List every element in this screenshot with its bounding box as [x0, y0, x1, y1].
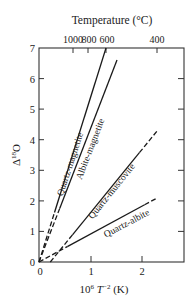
top-tick-400: 400: [150, 34, 165, 45]
y-tick-6: 6: [30, 74, 35, 85]
y-tick-7: 7: [30, 43, 35, 54]
top-ticks: [73, 48, 157, 53]
chart: Temperature (°C) 1000 800 600 400 0: [0, 0, 196, 304]
left-ticks: [39, 79, 44, 232]
y-tick-2: 2: [30, 196, 35, 207]
y-tick-0: 0: [30, 257, 35, 268]
top-tick-1000: 1000: [63, 34, 83, 45]
y-tick-1: 1: [30, 226, 35, 237]
top-tick-800: 800: [82, 34, 97, 45]
y-tick-labels: 0 1 2 3 4 5 6 7: [30, 43, 36, 268]
top-axis-title: Temperature (°C): [72, 14, 153, 27]
y-tick-4: 4: [30, 135, 36, 146]
x-tick-0: 0: [37, 266, 42, 277]
x-axis-label: 106 T−2 (K): [80, 283, 129, 296]
x-tick-labels: 0 1 2: [37, 266, 144, 277]
y-tick-3: 3: [30, 165, 35, 176]
x-tick-2: 2: [139, 266, 144, 277]
top-tick-600: 600: [100, 34, 115, 45]
label-quartz-muscovite: Quartz-muscovite: [86, 162, 137, 221]
y-tick-5: 5: [30, 104, 35, 115]
x-tick-1: 1: [88, 266, 93, 277]
y-axis-label: Δ18O: [10, 144, 22, 166]
right-ticks: [178, 79, 184, 232]
bottom-ticks: [91, 256, 142, 262]
